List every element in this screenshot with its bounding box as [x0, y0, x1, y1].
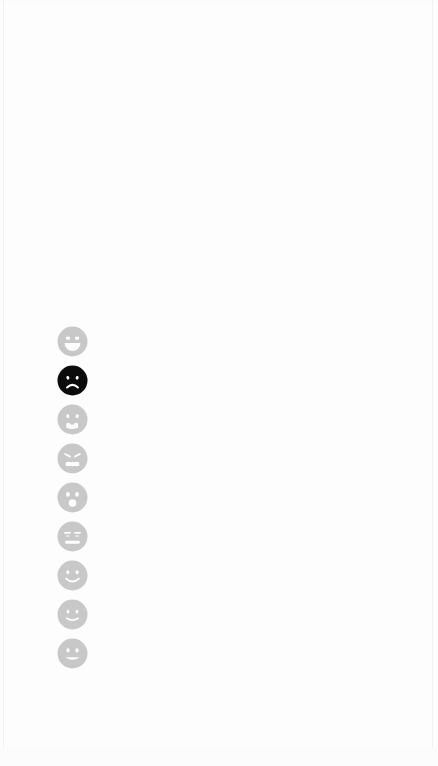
emoji-option-expressionless-flat-mouth-face[interactable]	[57, 521, 88, 552]
emoji-option-distressed-crying-face[interactable]	[57, 404, 88, 435]
sad-frowning-face-icon	[57, 365, 88, 396]
page-bottom-edge	[0, 748, 438, 766]
app-screen	[0, 0, 438, 766]
page-right-edge-rule	[432, 0, 433, 766]
smiling-face-icon	[57, 560, 88, 591]
surprised-face-with-open-mouth-icon	[57, 482, 88, 513]
emoji-option-slightly-smiling-face[interactable]	[57, 599, 88, 630]
emoji-option-confounded-face[interactable]	[57, 443, 88, 474]
confounded-face-icon	[57, 443, 88, 474]
distressed-crying-face-icon	[57, 404, 88, 435]
grinning-face-with-open-mouth-icon	[57, 326, 88, 357]
emoji-option-sad-frowning-face[interactable]	[57, 365, 88, 396]
page-top-edge	[0, 0, 438, 4]
emoji-option-smiling-face[interactable]	[57, 560, 88, 591]
emoji-rating-scale[interactable]	[57, 326, 88, 677]
emoji-option-surprised-face-with-open-mouth[interactable]	[57, 482, 88, 513]
smiling-face-with-smiling-eyes-icon	[57, 638, 88, 669]
slightly-smiling-face-icon	[57, 599, 88, 630]
page-left-edge-rule	[3, 0, 4, 766]
expressionless-flat-mouth-face-icon	[57, 521, 88, 552]
emoji-option-grinning-face-with-open-mouth[interactable]	[57, 326, 88, 357]
emoji-option-smiling-face-with-smiling-eyes[interactable]	[57, 638, 88, 669]
